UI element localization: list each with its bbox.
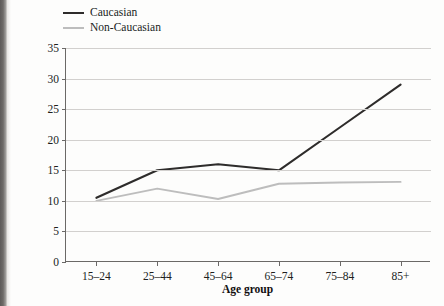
- x-axis-tick: [218, 261, 219, 266]
- x-axis-tick-label: 15–24: [82, 270, 111, 282]
- x-axis-title: Age group: [65, 283, 430, 295]
- y-axis-tick: [62, 109, 67, 110]
- plot-area: 0510152025303515–2425–4445–6465–7475–848…: [65, 48, 430, 262]
- gridline: [66, 79, 431, 80]
- y-axis-tick-label: 20: [48, 134, 60, 146]
- x-axis-tick: [96, 261, 97, 266]
- x-axis-tick: [279, 261, 280, 266]
- gridline: [66, 170, 431, 171]
- y-axis-tick-label: 35: [48, 42, 60, 54]
- gridline: [66, 140, 431, 141]
- y-axis-tick-label: 0: [53, 256, 59, 268]
- y-axis-tick-label: 5: [53, 225, 59, 237]
- x-axis-tick-label: 65–74: [265, 270, 294, 282]
- x-axis-tick-label: 45–64: [204, 270, 233, 282]
- gridline: [66, 109, 431, 110]
- x-axis-tick: [401, 261, 402, 266]
- chart-page: Caucasian Non-Caucasian Suicide rate per…: [0, 0, 444, 306]
- gridline: [66, 48, 431, 49]
- page-gutter-shadow: [0, 0, 7, 306]
- gridline: [66, 201, 431, 202]
- y-axis-tick-label: 25: [48, 103, 60, 115]
- x-axis-tick-label: 75–84: [325, 270, 354, 282]
- series-line-caucasian: [96, 85, 400, 198]
- x-axis-tick: [340, 261, 341, 266]
- y-axis-tick: [62, 170, 67, 171]
- x-axis-tick-label: 85+: [392, 270, 410, 282]
- legend-label-caucasian: Caucasian: [90, 7, 137, 19]
- gridline: [66, 231, 431, 232]
- y-axis-tick: [62, 48, 67, 49]
- chart-legend: Caucasian Non-Caucasian: [63, 6, 161, 36]
- y-axis-tick: [62, 79, 67, 80]
- legend-line-icon-non-caucasian: [63, 27, 84, 29]
- y-axis-tick: [62, 231, 67, 232]
- y-axis-tick-label: 10: [48, 195, 60, 207]
- series-line-non-caucasian: [96, 182, 400, 201]
- y-axis-tick: [62, 201, 67, 202]
- x-axis-tick-label: 25–44: [143, 270, 172, 282]
- y-axis-tick-label: 15: [48, 164, 60, 176]
- legend-item-caucasian: Caucasian: [63, 6, 161, 19]
- y-axis-tick: [62, 262, 67, 263]
- series-lines: [66, 48, 431, 262]
- legend-line-icon-caucasian: [63, 12, 84, 14]
- x-axis-tick: [157, 261, 158, 266]
- y-axis-tick: [62, 140, 67, 141]
- page-gutter-fade: [7, 0, 11, 306]
- y-axis-tick-label: 30: [48, 73, 60, 85]
- legend-label-non-caucasian: Non-Caucasian: [90, 22, 161, 34]
- legend-item-non-caucasian: Non-Caucasian: [63, 21, 161, 34]
